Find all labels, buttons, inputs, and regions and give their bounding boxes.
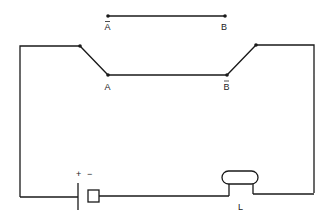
- lamp-bulb: [222, 171, 258, 184]
- switch-pivot-dot: [254, 43, 258, 47]
- label-b-top: B: [221, 22, 227, 32]
- battery-plus-label: +: [76, 169, 81, 179]
- battery-negative-cell: [88, 190, 99, 202]
- label-a-switch: A: [105, 82, 111, 92]
- left-switch: [20, 43, 314, 197]
- lamp-label: L: [238, 202, 243, 212]
- battery: [20, 183, 229, 210]
- label-b-switch: B: [224, 82, 230, 92]
- label-a-bar-top: A: [105, 22, 111, 33]
- switch-pivot-dot: [78, 44, 82, 48]
- circuit-diagram: A B A B + − L: [0, 0, 331, 221]
- node-dot: [223, 14, 227, 18]
- lamp: [222, 171, 314, 196]
- switch-contact-dot: [106, 73, 110, 77]
- node-dot: [106, 14, 110, 18]
- reference-wire: [106, 14, 227, 18]
- battery-minus-label: −: [87, 169, 92, 179]
- switch-contact-dot: [225, 73, 229, 77]
- label-b-bar-switch: B: [224, 81, 230, 92]
- label-a-top: A: [105, 22, 111, 32]
